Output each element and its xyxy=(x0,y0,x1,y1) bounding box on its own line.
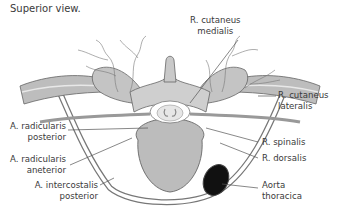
spinal-nerve-right xyxy=(190,114,300,122)
label-aorta-thoracica: Aorta thoracica xyxy=(262,180,302,202)
label-r-cutaneus-medialis: R. cutaneus medialis xyxy=(190,15,241,37)
vertebral-body xyxy=(136,118,204,192)
label-r-cutaneus-lateralis: R. cutaneus lateralis xyxy=(278,90,329,112)
label-a-intercostalis-posterior: A. intercostalis posterior xyxy=(30,180,98,202)
label-r-spinalis: R. spinalis xyxy=(262,137,305,148)
aorta-thoracica-shape xyxy=(198,160,233,199)
spinal-cord xyxy=(157,105,183,121)
label-r-dorsalis: R. dorsalis xyxy=(262,153,306,164)
spinous-process xyxy=(164,56,176,82)
label-a-radicularis-anterior: A. radicularis aneterior xyxy=(4,154,66,176)
label-a-radicularis-posterior: A. radicularis posterior xyxy=(4,121,66,143)
